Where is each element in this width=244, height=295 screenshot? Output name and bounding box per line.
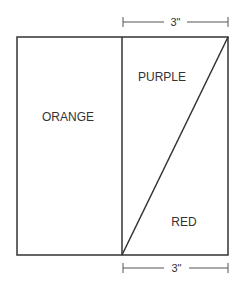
top-dimension-label: 3"	[170, 16, 180, 28]
orange-label: ORANGE	[42, 110, 94, 124]
red-label: RED	[171, 215, 197, 229]
bottom-dimension: 3"	[123, 262, 228, 274]
purple-label: PURPLE	[138, 70, 186, 84]
bottom-dimension-label: 3"	[171, 262, 181, 274]
top-dimension: 3"	[123, 16, 228, 28]
panel-diagram: 3" ORANGE PURPLE RED 3"	[0, 0, 244, 295]
